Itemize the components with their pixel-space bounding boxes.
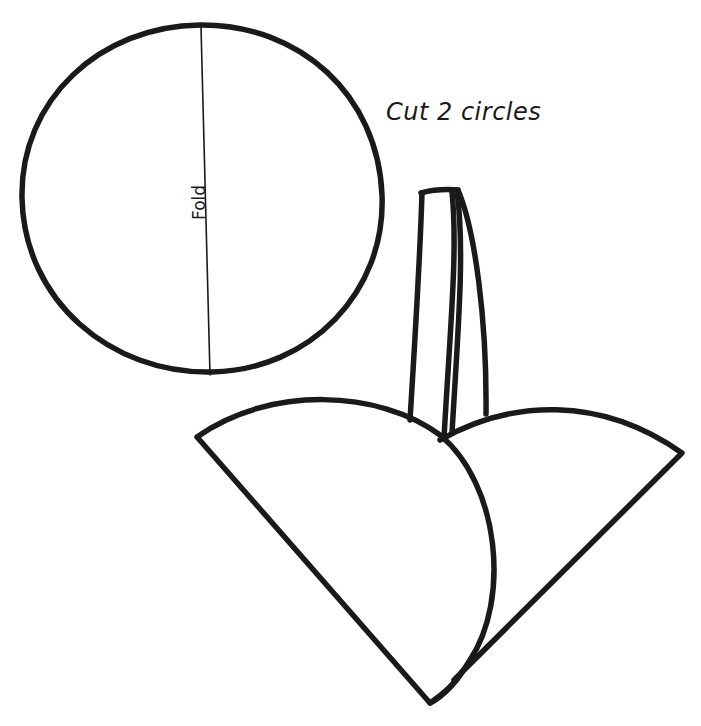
cut-instruction-label: Cut 2 circles (386, 98, 541, 126)
fold-label: Fold (189, 185, 209, 220)
circle-pattern: Fold (22, 25, 382, 375)
left-folded-half-circle (197, 400, 494, 703)
handle-strip (410, 190, 486, 438)
handle-outer-left-edge (410, 193, 422, 420)
assembled-basket (197, 190, 682, 703)
fold-overlap-edge (430, 672, 462, 703)
right-folded-half-circle (440, 410, 682, 680)
craft-pattern-diagram: Fold Cut 2 circles (0, 0, 701, 726)
